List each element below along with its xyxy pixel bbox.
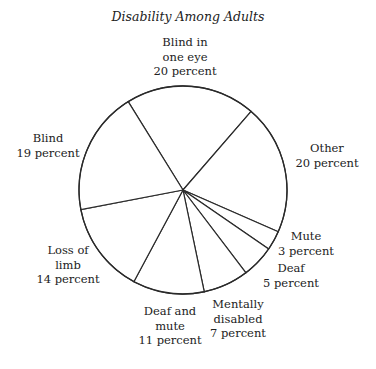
- slice-name-label: limb: [55, 258, 81, 272]
- slice-name-label: Deaf and: [144, 304, 197, 318]
- slice-name-label: disabled: [213, 312, 263, 326]
- slice-value-label: 19 percent: [16, 146, 80, 160]
- slice-name-label: Blind: [33, 131, 64, 145]
- slice-name-label: Blind in: [162, 35, 208, 49]
- slice-value-label: 20 percent: [295, 156, 359, 170]
- slice-value-label: 3 percent: [278, 244, 334, 258]
- slice-name-label: Loss of: [47, 243, 89, 257]
- slice-label: Other20 percent: [295, 141, 359, 170]
- slice-name-label: Other: [310, 141, 344, 155]
- slice-label: Mute3 percent: [278, 229, 334, 258]
- slice-value-label: 11 percent: [138, 333, 202, 347]
- slice-label: Mentallydisabled7 percent: [210, 297, 266, 340]
- slice-value-label: 14 percent: [36, 272, 100, 286]
- slice-label: Deaf5 percent: [263, 261, 319, 290]
- slice-name-label: Mute: [291, 229, 322, 243]
- pie-chart: Disability Among Adults Blind inone eye2…: [0, 0, 376, 369]
- pie-slices: [79, 86, 287, 294]
- slice-label: Blind19 percent: [16, 131, 80, 160]
- slice-name-label: mute: [155, 319, 185, 333]
- slice-label: Blind inone eye20 percent: [153, 35, 217, 78]
- slice-name-label: Deaf: [277, 261, 305, 275]
- chart-title: Disability Among Adults: [111, 9, 265, 24]
- slice-value-label: 7 percent: [210, 326, 266, 340]
- slice-value-label: 5 percent: [263, 276, 319, 290]
- slice-name-label: one eye: [163, 50, 208, 64]
- slice-name-label: Mentally: [212, 297, 264, 311]
- slice-label: Deaf andmute11 percent: [138, 304, 202, 347]
- slice-value-label: 20 percent: [153, 64, 217, 78]
- slice-label: Loss oflimb14 percent: [36, 243, 100, 286]
